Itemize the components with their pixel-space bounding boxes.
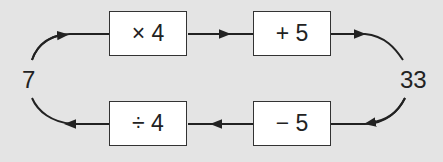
arrow-div4-to-input: [32, 98, 109, 124]
arrow-input-to-times4: [32, 34, 109, 60]
operation-label: ÷ 4: [132, 110, 164, 137]
operation-box-plus-5: + 5: [253, 11, 331, 56]
arrow-plus5-to-output: [331, 34, 403, 60]
operation-box-minus-5: − 5: [253, 101, 331, 146]
operation-label: × 4: [132, 20, 165, 47]
operation-box-times-4: × 4: [109, 11, 187, 56]
arrows-layer: [0, 0, 443, 162]
arrow-output-to-minus5: [331, 98, 405, 124]
input-value: 7: [22, 66, 35, 94]
operation-label: − 5: [276, 110, 309, 137]
operation-box-divide-4: ÷ 4: [109, 101, 187, 146]
operation-label: + 5: [276, 20, 309, 47]
output-value: 33: [400, 66, 427, 94]
